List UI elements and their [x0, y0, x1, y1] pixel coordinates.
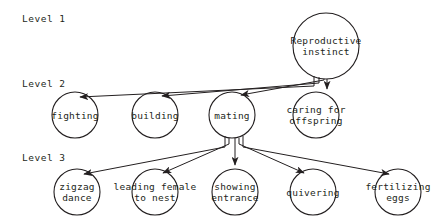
node-label-zigzag-dance: zigzagdance [59, 181, 95, 203]
level-3-label: Level 3 [22, 152, 66, 163]
diagram-canvas: Level 1 Level 2 Level 3 Reproductiveinst… [0, 0, 445, 223]
level-1-label: Level 1 [22, 13, 66, 24]
node-label-showing-entrance: showingentrance [211, 181, 258, 203]
node-label-caring-for-offspring: caring foroffspring [286, 104, 345, 126]
node-label-quivering: quivering [286, 187, 339, 198]
edge-group-level2 [84, 136, 389, 174]
edge-mating-fertilizing [243, 136, 389, 174]
edge-group-level1 [80, 76, 327, 97]
node-label-fertilizing-eggs: fertilizingeggs [365, 181, 430, 203]
level-2-label: Level 2 [22, 78, 66, 89]
node-label-leading-female-to-nest: leading femaleto nest [114, 181, 197, 203]
edge-mating-quivering [239, 138, 304, 173]
node-label-building: building [131, 110, 178, 121]
edge-mating-leading [163, 138, 229, 173]
node-label-reproductive-instinct: Reproductiveinstinct [290, 35, 361, 57]
node-label-mating: mating [214, 110, 250, 121]
node-label-fighting: fighting [51, 110, 98, 121]
